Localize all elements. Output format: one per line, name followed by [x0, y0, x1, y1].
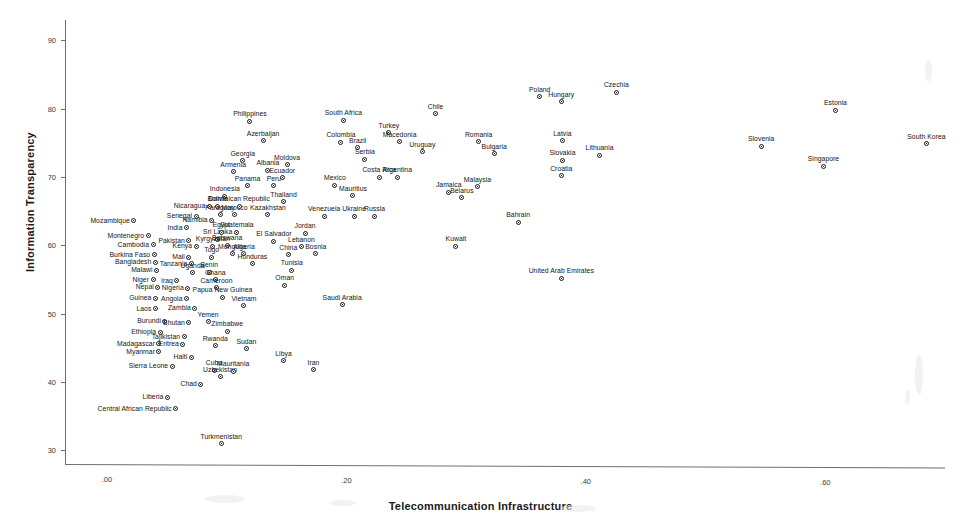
scatter-point[interactable] [492, 151, 497, 156]
scatter-point[interactable] [299, 244, 304, 249]
scatter-point[interactable] [250, 261, 255, 266]
scatter-point-label: Bhutan [163, 320, 185, 327]
scatter-point-label: Serbia [355, 149, 375, 156]
scatter-point[interactable] [189, 355, 194, 360]
scatter-point-label: Bosnia [305, 244, 326, 251]
scatter-point[interactable] [185, 286, 190, 291]
scatter-point-label: Iran [307, 360, 319, 367]
scatter-point[interactable] [156, 349, 161, 354]
scatter-point[interactable] [821, 164, 826, 169]
scatter-point[interactable] [241, 303, 246, 308]
scatter-point[interactable] [244, 346, 249, 351]
scatter-point-label: Liberia [143, 394, 164, 401]
scatter-point[interactable] [151, 277, 156, 282]
scatter-point[interactable] [338, 140, 343, 145]
scatter-point-label: Zimbabwe [211, 321, 243, 328]
scatter-point[interactable] [219, 441, 224, 446]
scatter-point[interactable] [165, 395, 170, 400]
scatter-point[interactable] [311, 367, 316, 372]
scatter-point[interactable] [184, 296, 189, 301]
scatter-point-label: Czechia [604, 82, 629, 89]
scatter-point[interactable] [247, 119, 252, 124]
scatter-point[interactable] [289, 268, 294, 273]
scatter-point[interactable] [459, 195, 464, 200]
scatter-point[interactable] [153, 306, 158, 311]
scatter-point[interactable] [516, 220, 521, 225]
scatter-point[interactable] [271, 183, 276, 188]
scatter-point[interactable] [924, 141, 929, 146]
scatter-point[interactable] [231, 369, 236, 374]
scatter-point[interactable] [559, 173, 564, 178]
scatter-point[interactable] [230, 251, 235, 256]
scatter-point[interactable] [218, 374, 223, 379]
scatter-point[interactable] [352, 214, 357, 219]
scatter-point[interactable] [170, 364, 175, 369]
scatter-point[interactable] [237, 204, 242, 209]
scatter-point-label: Panama [235, 176, 261, 183]
scatter-point[interactable] [209, 255, 214, 260]
scatter-point[interactable] [560, 138, 565, 143]
scatter-point[interactable] [420, 149, 425, 154]
scatter-point[interactable] [190, 270, 195, 275]
scatter-point[interactable] [597, 153, 602, 158]
scatter-point[interactable] [759, 144, 764, 149]
scatter-point[interactable] [537, 94, 542, 99]
scatter-point[interactable] [453, 244, 458, 249]
scatter-point[interactable] [174, 278, 179, 283]
scatter-point[interactable] [151, 242, 156, 247]
scatter-point[interactable] [350, 193, 355, 198]
scatter-point-label: Lithuania [586, 145, 614, 152]
scatter-point[interactable] [231, 169, 236, 174]
scatter-point[interactable] [372, 214, 377, 219]
scatter-point[interactable] [153, 260, 158, 265]
scatter-point[interactable] [245, 183, 250, 188]
scatter-point[interactable] [152, 252, 157, 257]
scatter-point[interactable] [146, 233, 151, 238]
scatter-point[interactable] [322, 214, 327, 219]
scatter-point[interactable] [614, 90, 619, 95]
scatter-point[interactable] [377, 175, 382, 180]
scatter-point-label: Mauritania [217, 361, 249, 368]
scatter-point[interactable] [362, 157, 367, 162]
scatter-point[interactable] [194, 244, 199, 249]
scatter-point[interactable] [559, 99, 564, 104]
scatter-point[interactable] [184, 225, 189, 230]
scatter-point[interactable] [265, 212, 270, 217]
scatter-point[interactable] [206, 319, 211, 324]
scatter-point[interactable] [341, 118, 346, 123]
scatter-point[interactable] [303, 231, 308, 236]
scatter-point[interactable] [173, 406, 178, 411]
scatter-point-label: Moldova [274, 155, 300, 162]
scatter-point[interactable] [433, 111, 438, 116]
scatter-point[interactable] [340, 302, 345, 307]
scatter-point[interactable] [313, 251, 318, 256]
scatter-point[interactable] [560, 158, 565, 163]
scatter-point[interactable] [475, 184, 480, 189]
scatter-point[interactable] [559, 276, 564, 281]
scatter-point[interactable] [833, 108, 838, 113]
scatter-point[interactable] [395, 175, 400, 180]
scatter-point[interactable] [182, 334, 187, 339]
scatter-point[interactable] [198, 382, 203, 387]
scatter-point[interactable] [155, 285, 160, 290]
scatter-point[interactable] [397, 139, 402, 144]
scatter-point[interactable] [180, 342, 185, 347]
scatter-point[interactable] [332, 183, 337, 188]
scatter-point[interactable] [218, 212, 223, 217]
scatter-point[interactable] [280, 175, 285, 180]
scatter-point[interactable] [186, 255, 191, 260]
scatter-point[interactable] [154, 268, 159, 273]
scatter-point[interactable] [286, 252, 291, 257]
scatter-point[interactable] [282, 283, 287, 288]
scatter-point[interactable] [186, 320, 191, 325]
scatter-point[interactable] [220, 295, 225, 300]
scatter-point[interactable] [213, 343, 218, 348]
scatter-point[interactable] [131, 218, 136, 223]
scatter-point[interactable] [281, 358, 286, 363]
scatter-point[interactable] [261, 138, 266, 143]
scatter-point[interactable] [476, 139, 481, 144]
scatter-point[interactable] [271, 239, 276, 244]
scatter-point[interactable] [153, 296, 158, 301]
scatter-point[interactable] [225, 329, 230, 334]
scatter-point[interactable] [232, 212, 237, 217]
